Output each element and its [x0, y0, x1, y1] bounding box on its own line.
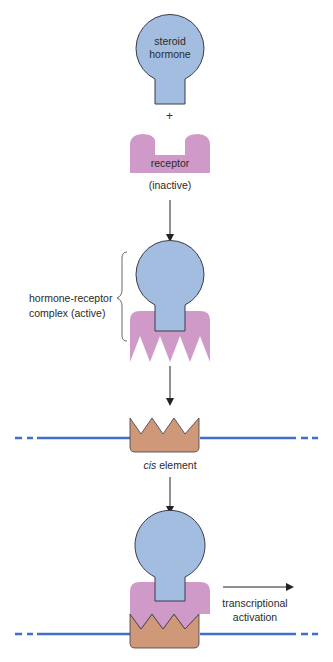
cis-element-label: cis element: [120, 459, 220, 472]
plus-sign: +: [166, 109, 173, 123]
bound-complex-shape: [130, 510, 210, 648]
hormone-receptor-complex-shape: [130, 240, 210, 362]
diagram-canvas: [0, 0, 333, 662]
cis-italic: cis: [143, 459, 156, 471]
activation-label-line1: transcriptional: [215, 597, 295, 610]
brace: [117, 252, 127, 341]
receptor-state-label: (inactive): [130, 179, 210, 192]
complex-label-line2: complex (active): [29, 306, 105, 321]
hormone-label-line1: steroid: [140, 35, 200, 48]
receptor-label: receptor: [130, 157, 210, 170]
cis-element-shape: [130, 418, 199, 452]
complex-label-line1: hormone-receptor: [29, 291, 112, 306]
activation-label-line2: activation: [215, 611, 295, 624]
hormone-label-line2: hormone: [140, 48, 200, 61]
cis-rest: element: [156, 459, 196, 471]
